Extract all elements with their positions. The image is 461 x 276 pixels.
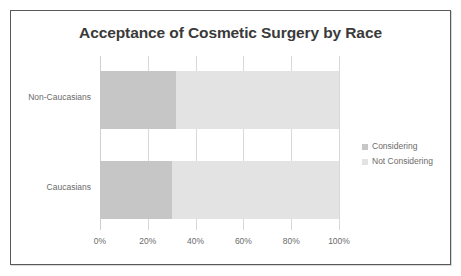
legend-item-considering[interactable]: Considering [362,139,448,154]
legend-swatch-not-considering-icon [362,159,368,165]
chart-legend: Considering Not Considering [362,139,448,169]
bar-segment-caucasians-considering[interactable] [100,161,172,219]
gridline-100 [339,56,340,230]
bar-segment-non-caucasians-considering[interactable] [100,71,176,129]
legend-item-not-considering[interactable]: Not Considering [362,154,448,169]
bar-segment-caucasians-not-considering[interactable] [172,161,339,219]
x-axis-tick-labels: 0% 20% 40% 60% 80% 100% [100,230,339,250]
bar-row-non-caucasians [100,71,339,129]
category-label-non-caucasians: Non-Caucasians [0,92,91,102]
x-tick-label-60: 60% [221,236,265,246]
category-label-caucasians: Caucasians [0,182,91,192]
x-tick-label-20: 20% [126,236,170,246]
x-tick-label-40: 40% [174,236,218,246]
legend-label-considering: Considering [372,142,417,151]
bar-segment-non-caucasians-not-considering[interactable] [176,71,339,129]
x-tick-label-100: 100% [317,236,361,246]
chart-title: Acceptance of Cosmetic Surgery by Race [11,24,450,42]
bar-row-caucasians [100,161,339,219]
x-tick-label-80: 80% [269,236,313,246]
plot-area: Non-Caucasians Caucasians 0% 20% 40% 60%… [100,56,339,230]
x-tick-label-0: 0% [78,236,122,246]
chart-frame: Acceptance of Cosmetic Surgery by Race N… [10,10,451,265]
legend-label-not-considering: Not Considering [372,157,433,166]
legend-swatch-considering-icon [362,144,368,150]
